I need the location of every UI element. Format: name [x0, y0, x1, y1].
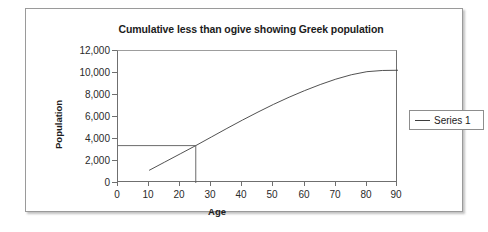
x-tick-label-20: 20 [166, 189, 192, 200]
y-tick-label-12000: 12,000 [58, 45, 110, 56]
x-tick-label-50: 50 [259, 189, 285, 200]
y-tick-label-10000: 10,000 [58, 67, 110, 78]
y-tick-label-6000: 6,000 [58, 111, 110, 122]
y-tick-label-2000: 2,000 [58, 155, 110, 166]
x-tick-label-10: 10 [135, 189, 161, 200]
x-tick-label-90: 90 [383, 189, 409, 200]
legend-entry-label: Series 1 [434, 115, 471, 126]
chart-title: Cumulative less than ogive showing Greek… [86, 23, 416, 35]
y-tick-label-4000: 4,000 [58, 133, 110, 144]
reference-lines [118, 146, 196, 183]
chart-legend: Series 1 [409, 110, 484, 130]
x-tick-label-60: 60 [291, 189, 317, 200]
x-tick-label-0: 0 [104, 189, 130, 200]
chart-screenshot: Cumulative less than ogive showing Greek… [0, 0, 488, 232]
y-tick-label-0: 0 [58, 177, 110, 188]
x-tick-label-80: 80 [353, 189, 379, 200]
x-tick-label-70: 70 [322, 189, 348, 200]
x-tick-label-40: 40 [228, 189, 254, 200]
x-tick-label-30: 30 [197, 189, 223, 200]
series-plot [118, 51, 398, 183]
x-axis-title: Age [208, 206, 226, 217]
chart-card-frame: Cumulative less than ogive showing Greek… [25, 8, 463, 212]
legend-entry-series-1: Series 1 [410, 111, 483, 129]
legend-line-swatch [415, 120, 430, 121]
y-tick-label-8000: 8,000 [58, 89, 110, 100]
series-1-line [149, 70, 398, 170]
plot-area [117, 50, 397, 182]
